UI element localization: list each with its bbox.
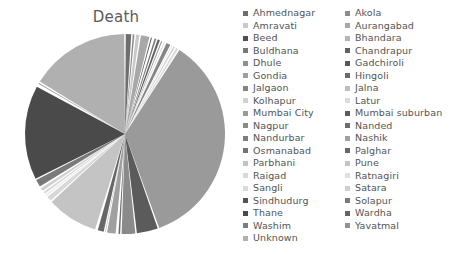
legend-item[interactable]: Nanded [345, 120, 453, 133]
legend-item[interactable]: Nagpur [243, 120, 343, 133]
legend-swatch-icon [243, 148, 248, 153]
legend-item-label: Chandrapur [355, 45, 412, 58]
legend-item[interactable]: Ratnagiri [345, 170, 453, 183]
legend-item-label: Nagpur [253, 120, 289, 133]
legend-item[interactable]: Gadchiroli [345, 57, 453, 70]
legend-item[interactable]: Sindhudurg [243, 195, 343, 208]
legend-item-label: Jalna [355, 82, 379, 95]
legend-swatch-icon [345, 223, 350, 228]
legend-swatch-icon [345, 73, 350, 78]
legend-item[interactable]: Jalna [345, 82, 453, 95]
legend-swatch-icon [243, 123, 248, 128]
legend-item[interactable]: Beed [243, 32, 343, 45]
legend-item[interactable]: Jalgaon [243, 82, 343, 95]
legend-item[interactable]: Satara [345, 182, 453, 195]
legend-item-label: Wardha [355, 207, 392, 220]
legend-item[interactable]: Gondia [243, 70, 343, 83]
legend-item[interactable]: Aurangabad [345, 20, 453, 33]
legend-swatch-icon [345, 123, 350, 128]
legend-swatch-icon [345, 136, 350, 141]
legend-swatch-icon [243, 136, 248, 141]
legend-swatch-icon [243, 61, 248, 66]
legend-item-label: Nashik [355, 132, 388, 145]
legend-swatch-icon [345, 148, 350, 153]
legend-item[interactable]: Palghar [345, 145, 453, 158]
legend-item-label: Kolhapur [253, 95, 296, 108]
legend-item[interactable]: Solapur [345, 195, 453, 208]
legend-item[interactable]: Mumbai City [243, 107, 343, 120]
legend-item[interactable]: Ahmednagar [243, 7, 343, 20]
legend-item[interactable]: Yavatmal [345, 220, 453, 233]
legend-item-label: Ratnagiri [355, 170, 399, 183]
legend-item-label: Gadchiroli [355, 57, 404, 70]
legend-swatch-icon [243, 173, 248, 178]
legend-item[interactable]: Latur [345, 95, 453, 108]
legend-item[interactable]: Nashik [345, 132, 453, 145]
pie-chart-figure: Death AhmednagarAkolaAmravatiAurangabadB… [0, 0, 453, 258]
pie-slice-group: AhmednagarAkolaAmravatiAurangabadBeedBul… [25, 34, 225, 234]
legend-item-label: Osmanabad [253, 145, 311, 158]
legend-swatch-icon [345, 111, 350, 116]
legend-item[interactable]: Osmanabad [243, 145, 343, 158]
legend-item-label: Sindhudurg [253, 195, 309, 208]
legend-item[interactable]: Amravati [243, 20, 343, 33]
legend-item-label: Palghar [355, 145, 391, 158]
legend-item-label: Unknown [253, 232, 298, 245]
legend-item[interactable]: Chandrapur [345, 45, 453, 58]
legend-swatch-icon [243, 198, 248, 203]
legend-swatch-icon [243, 23, 248, 28]
legend-item[interactable]: Parbhani [243, 157, 343, 170]
legend-swatch-icon [243, 111, 248, 116]
legend-item[interactable]: Pune [345, 157, 453, 170]
legend-swatch-icon [243, 48, 248, 53]
legend-item-label: Solapur [355, 195, 392, 208]
legend-swatch-icon [345, 11, 350, 16]
legend-item[interactable]: Wardha [345, 207, 453, 220]
legend-swatch-icon [243, 211, 248, 216]
legend-item-label: Amravati [253, 20, 297, 33]
pie-svg: AhmednagarAkolaAmravatiAurangabadBeedBul… [0, 22, 236, 254]
legend-swatch-icon [243, 161, 248, 166]
legend-item[interactable]: Mumbai suburban [345, 107, 453, 120]
legend-item[interactable]: Sangli [243, 182, 343, 195]
legend-item-label: Yavatmal [355, 220, 399, 233]
legend-item[interactable]: Buldhana [243, 45, 343, 58]
legend-swatch-icon [243, 236, 248, 241]
legend-item-label: Gondia [253, 70, 287, 83]
legend-swatch-icon [345, 23, 350, 28]
legend-item-label: Beed [253, 32, 278, 45]
legend-swatch-icon [345, 98, 350, 103]
legend-item[interactable]: Thane [243, 207, 343, 220]
legend-item-label: Akola [355, 7, 381, 20]
legend-item-label: Aurangabad [355, 20, 414, 33]
legend-swatch-icon [345, 173, 350, 178]
legend-column-2: AkolaAurangabadBhandaraChandrapurGadchir… [345, 7, 453, 232]
legend-item[interactable]: Kolhapur [243, 95, 343, 108]
legend-item-label: Jalgaon [253, 82, 289, 95]
legend-swatch-icon [345, 86, 350, 91]
legend-item[interactable]: Hingoli [345, 70, 453, 83]
legend-swatch-icon [243, 98, 248, 103]
legend-item-label: Nandurbar [253, 132, 305, 145]
pie-plot-area: AhmednagarAkolaAmravatiAurangabadBeedBul… [0, 22, 236, 254]
legend-item[interactable]: Bhandara [345, 32, 453, 45]
legend-swatch-icon [243, 36, 248, 41]
legend-swatch-icon [345, 161, 350, 166]
legend-swatch-icon [345, 48, 350, 53]
legend-swatch-icon [243, 223, 248, 228]
legend-item-label: Mumbai City [253, 107, 314, 120]
legend-item-label: Raigad [253, 170, 286, 183]
legend-item[interactable]: Unknown [243, 232, 343, 245]
chart-legend: AhmednagarAmravatiBeedBuldhanaDhuleGondi… [240, 0, 453, 258]
legend-swatch-icon [243, 11, 248, 16]
legend-item[interactable]: Nandurbar [243, 132, 343, 145]
legend-item[interactable]: Washim [243, 220, 343, 233]
legend-swatch-icon [345, 186, 350, 191]
legend-item-label: Nanded [355, 120, 392, 133]
legend-item[interactable]: Akola [345, 7, 453, 20]
legend-column-1: AhmednagarAmravatiBeedBuldhanaDhuleGondi… [243, 7, 343, 245]
legend-item[interactable]: Dhule [243, 57, 343, 70]
legend-item-label: Washim [253, 220, 291, 233]
legend-item[interactable]: Raigad [243, 170, 343, 183]
legend-swatch-icon [345, 36, 350, 41]
